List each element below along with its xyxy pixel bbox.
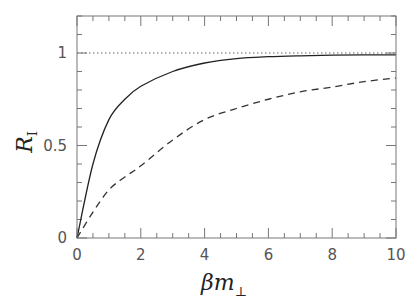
x-tick-labels: 0246810 — [72, 246, 405, 264]
x-axis-label: βm⊥ — [200, 270, 247, 299]
series-dashed — [77, 78, 396, 238]
y-axis-label: RI — [12, 131, 40, 154]
x-tick-label: 4 — [200, 246, 210, 264]
x-tick-label: 10 — [386, 246, 405, 264]
x-tick-label: 2 — [136, 246, 146, 264]
y-tick-label: 1 — [57, 44, 67, 62]
series-solid — [77, 55, 396, 238]
chart: 0246810 00.51 βm⊥ RI — [0, 0, 416, 303]
y-tick-label: 0.5 — [43, 137, 67, 155]
x-tick-label: 0 — [72, 246, 82, 264]
y-tick-labels: 00.51 — [43, 44, 67, 247]
x-tick-label: 6 — [264, 246, 274, 264]
plot-frame — [77, 16, 396, 238]
y-tick-label: 0 — [57, 229, 67, 247]
x-tick-label: 8 — [327, 246, 337, 264]
major-ticks — [77, 16, 396, 238]
minor-ticks — [77, 16, 396, 238]
